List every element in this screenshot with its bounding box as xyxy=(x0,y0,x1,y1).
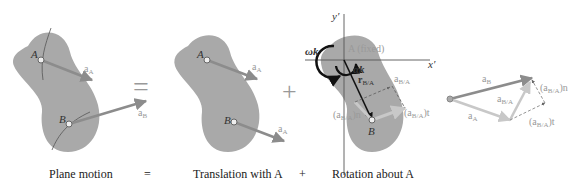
panel-rotation: y′ x′ ωk αk A (fixed) rB/A aB/A (aB/A)n … xyxy=(305,10,436,175)
svg-text:(aB/A)t: (aB/A)t xyxy=(529,116,555,129)
caption-plus: + xyxy=(299,167,306,182)
kinematics-diagram: A B aA aB = A B aA aA + y′ x′ ωk αk A (f… xyxy=(0,0,576,187)
panel-vector-sum: aB aB/A aA (aB/A)n (aB/A)t xyxy=(447,73,568,129)
svg-text:aB: aB xyxy=(138,107,147,120)
svg-text:aA: aA xyxy=(252,61,262,74)
point-a xyxy=(38,57,44,63)
svg-text:aB/A: aB/A xyxy=(497,93,513,106)
origin-point xyxy=(447,96,453,102)
fixed-label: A (fixed) xyxy=(348,43,384,55)
svg-text:(aB/A)n: (aB/A)n xyxy=(540,82,568,95)
panel-plane-motion: A B aA aB xyxy=(13,28,147,152)
svg-text:aB: aB xyxy=(482,73,491,86)
svg-text:aA: aA xyxy=(84,63,94,76)
panel-translation: A B aA aA xyxy=(174,35,287,152)
point-b xyxy=(231,119,237,125)
caption-rotation: Rotation about A xyxy=(332,167,414,182)
rigid-body xyxy=(13,33,99,152)
label-a: A xyxy=(196,48,204,60)
label-a: A xyxy=(30,48,38,60)
svg-text:aA: aA xyxy=(468,110,478,123)
svg-text:(aB/A)t: (aB/A)t xyxy=(404,107,430,120)
caption-translation: Translation with A xyxy=(193,167,283,182)
point-a xyxy=(204,57,210,63)
label-b: B xyxy=(59,113,66,125)
equals-operator: = xyxy=(133,71,149,102)
y-axis-label: y′ xyxy=(331,10,340,22)
plus-operator: + xyxy=(282,77,297,106)
rigid-body xyxy=(174,35,259,152)
label-b: B xyxy=(224,114,231,126)
x-axis-label: x′ xyxy=(427,58,436,70)
point-b xyxy=(369,117,375,123)
point-b xyxy=(66,121,72,127)
caption-equals: = xyxy=(144,167,151,182)
caption-plane-motion: Plane motion xyxy=(49,167,113,182)
label-b: B xyxy=(368,125,375,137)
svg-text:aA: aA xyxy=(278,123,288,136)
svg-text:aB/A: aB/A xyxy=(394,73,410,86)
omega-k-label: ωk xyxy=(305,45,319,57)
